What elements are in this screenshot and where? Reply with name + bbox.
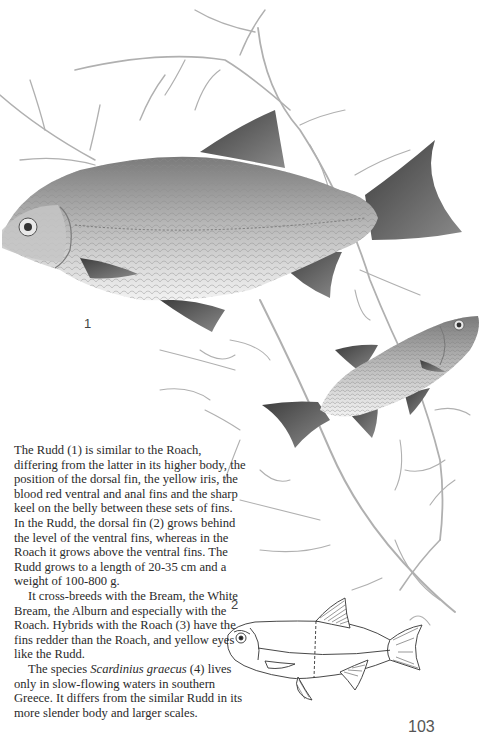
rudd-small-illustration (262, 316, 479, 448)
paragraph-rudd-description: The Rudd (1) is similar to the Roach, di… (14, 443, 246, 589)
paragraph-hybrids: It cross-breeds with the Bream, the Whit… (14, 589, 246, 662)
page-number: 103 (408, 718, 435, 736)
rudd-large-illustration (2, 110, 462, 332)
figure-label-1: 1 (84, 316, 91, 331)
paragraph-scardinius-graecus: The species Scardinius graecus (4) lives… (14, 662, 246, 720)
body-text: The Rudd (1) is similar to the Roach, di… (14, 443, 246, 720)
species-name: Scardinius graecus (90, 662, 186, 676)
paragraph3-prefix: The species (28, 662, 90, 676)
dorsal-fin-diagram (227, 598, 422, 700)
